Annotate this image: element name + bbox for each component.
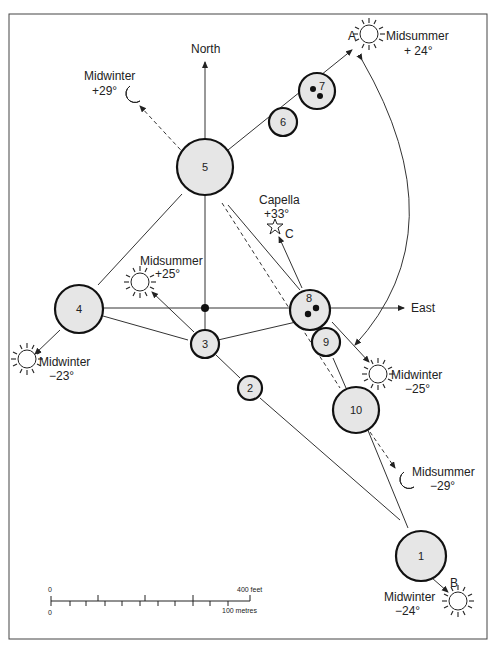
scale-feet-zero: 0 xyxy=(48,586,52,593)
stone-4: 4 xyxy=(55,285,103,333)
scale-metres-zero: 0 xyxy=(48,609,52,616)
stone-7: 7 xyxy=(299,73,335,109)
east-label: East xyxy=(411,301,436,315)
svg-text:3: 3 xyxy=(202,338,208,350)
stone-10: 10 xyxy=(333,387,379,433)
stone-3: 3 xyxy=(191,330,219,358)
svg-text:9: 9 xyxy=(323,336,329,348)
stone-1: 1 xyxy=(396,531,446,581)
label-midsummer-nw-title: Midsummer xyxy=(140,254,203,268)
line-4-to-midwinter xyxy=(35,330,60,354)
moon-line-south xyxy=(370,432,395,468)
line-9-to-10 xyxy=(333,358,346,388)
sun-icon-midwinter-se xyxy=(362,358,394,390)
point-A: A xyxy=(348,29,356,43)
point-B: B xyxy=(450,576,458,590)
label-capella-title: Capella xyxy=(259,193,300,207)
line-3-to-8 xyxy=(218,322,296,340)
svg-text:7: 7 xyxy=(319,80,325,92)
sun-icon-midsummer-nw xyxy=(124,266,156,298)
sun-icon-midsummer-ne xyxy=(353,18,385,50)
svg-text:1: 1 xyxy=(418,550,424,562)
line-10-to-1 xyxy=(367,428,408,528)
label-midwinter-moon-title: Midwinter xyxy=(84,69,135,83)
svg-text:10: 10 xyxy=(350,404,362,416)
moon-icon-midwinter xyxy=(126,86,140,103)
label-capella-value: +33° xyxy=(264,207,289,221)
label-midsummer-moon-title: Midsummer xyxy=(412,465,475,479)
stone-circle-alignment-diagram: 5 6 7 4 3 2 8 9 10 1 North East Midwinte… xyxy=(0,0,495,649)
label-midwinter-sw-title: Midwinter xyxy=(39,355,90,369)
scale-feet-max: 400 feet xyxy=(237,586,262,593)
svg-text:2: 2 xyxy=(247,382,253,394)
svg-text:5: 5 xyxy=(202,161,208,173)
stone-5: 5 xyxy=(177,139,233,195)
scale-metres-max: 100 metres xyxy=(222,607,258,614)
star-icon-capella xyxy=(267,219,283,234)
line-3-to-2 xyxy=(216,355,240,378)
line-4-to-3 xyxy=(103,316,188,340)
point-C: C xyxy=(285,227,294,241)
label-midwinter-south-title: Midwinter xyxy=(384,590,435,604)
label-midwinter-south-value: −24° xyxy=(395,604,420,618)
line-8-to-capella xyxy=(279,237,302,288)
scale-bar: 0 400 feet 0 100 metres xyxy=(48,586,262,616)
svg-text:8: 8 xyxy=(306,292,312,304)
label-midwinter-se-title: Midwinter xyxy=(391,368,442,382)
center-point xyxy=(201,304,209,312)
north-label: North xyxy=(191,42,220,56)
label-midwinter-se-value: −25° xyxy=(405,382,430,396)
label-midsummer-ne-title: Midsummer xyxy=(386,29,449,43)
label-midwinter-sw-value: −23° xyxy=(49,369,74,383)
label-midsummer-nw-value: +25° xyxy=(155,267,180,281)
stone-6: 6 xyxy=(269,108,297,136)
stone-8: 8 xyxy=(290,290,330,330)
label-midsummer-moon-value: −29° xyxy=(430,479,455,493)
line-3-to-midsummer xyxy=(152,292,194,332)
svg-text:4: 4 xyxy=(76,303,82,315)
label-midsummer-ne-value: + 24° xyxy=(404,44,433,58)
solstice-arc xyxy=(355,60,409,345)
stone-2: 2 xyxy=(238,376,262,400)
label-midwinter-moon-value: +29° xyxy=(92,84,117,98)
svg-text:6: 6 xyxy=(280,116,286,128)
stone-9: 9 xyxy=(312,328,340,356)
